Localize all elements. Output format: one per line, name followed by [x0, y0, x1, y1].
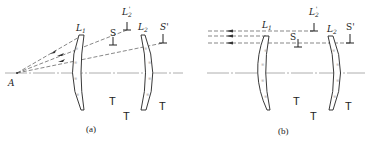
caption-b: (b): [278, 126, 289, 136]
lens2-image-b-label: L2': [308, 5, 319, 18]
lens2-image-b-lower-mark: T: [310, 110, 317, 122]
svg-text:※: ※: [264, 94, 267, 99]
svg-text:※: ※: [76, 92, 79, 97]
stop-image-b-label: S': [346, 22, 355, 32]
svg-text:※: ※: [74, 60, 77, 65]
stop-image-b-mark: [346, 34, 354, 43]
svg-text:※: ※: [75, 46, 78, 51]
panel-a: A ※※※※ L1 ※※※※ L2 S L2' S' T T T (a): [5, 5, 183, 134]
lens2-image-a-lower-mark: T: [123, 110, 130, 122]
svg-text:※: ※: [146, 92, 149, 97]
stop-s-a-lower-mark: T: [109, 95, 116, 107]
stop-s-a-mark: [109, 37, 117, 45]
lens2-image-a-mark: [123, 22, 131, 30]
stop-s-b-label: S: [290, 32, 296, 42]
ray-arrows-b: [226, 30, 233, 45]
svg-text:※: ※: [336, 62, 339, 67]
caption-a: (a): [86, 124, 96, 134]
stop-image-a-lower-mark: T: [159, 100, 166, 112]
stop-image-a-label: S': [160, 22, 169, 32]
stop-s-a-label: S: [110, 28, 116, 38]
lens2-image-a-label: L2': [121, 5, 132, 18]
ray-arrows-a: [50, 50, 65, 62]
stop-image-b-lower-mark: T: [345, 100, 352, 112]
lens-l2-b-label: L2: [326, 24, 337, 35]
point-a-dot: [16, 72, 18, 74]
svg-text:※: ※: [333, 94, 336, 99]
svg-text:※: ※: [144, 46, 147, 51]
svg-text:※: ※: [74, 76, 77, 81]
optical-diagram: A ※※※※ L1 ※※※※ L2 S L2' S' T T T (a): [0, 0, 365, 146]
svg-text:※: ※: [261, 62, 264, 67]
point-a-label: A: [7, 78, 15, 88]
stop-s-b-lower-mark: T: [293, 95, 300, 107]
stop-image-a-mark: [159, 34, 167, 43]
lens-l2-a-label: L2: [137, 22, 148, 33]
lens-l1-b-label: L1: [261, 20, 272, 31]
lens2-image-b-mark: [310, 23, 318, 31]
svg-text:※: ※: [148, 60, 151, 65]
lens-l1-a-label: L1: [75, 23, 86, 34]
panel-b: ※※※※ L1 ※※※※ L2 S L2' S' T T T (b): [207, 5, 365, 136]
svg-text:※: ※: [261, 78, 264, 83]
svg-text:※: ※: [148, 76, 151, 81]
svg-text:※: ※: [336, 78, 339, 83]
svg-text:※: ※: [264, 48, 267, 53]
svg-text:※: ※: [332, 48, 335, 53]
